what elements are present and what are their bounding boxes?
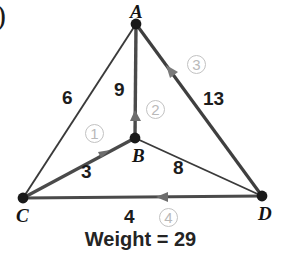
- edge-weight-BA: 9: [114, 80, 125, 99]
- edge-weight-BD: 8: [173, 158, 184, 177]
- vertex-label-C: C: [16, 206, 29, 225]
- order-marker-2: 2: [146, 100, 165, 119]
- order-marker-3: 3: [187, 55, 206, 74]
- edge-CA: [23, 24, 136, 198]
- weight-caption: Weight = 29: [0, 228, 281, 251]
- graph-figure: ) A B C D 6 9 13 3 8 4 1 2 3 4 Weight = …: [0, 0, 281, 259]
- edge-CB: [23, 138, 135, 198]
- edge-BD: [135, 138, 262, 196]
- arrowhead-DC: [156, 192, 168, 202]
- vertex-C: [18, 193, 29, 204]
- order-marker-4: 4: [159, 208, 178, 227]
- order-marker-1: 1: [85, 124, 104, 143]
- vertex-label-A: A: [130, 2, 143, 21]
- vertex-B: [130, 133, 141, 144]
- vertex-label-B: B: [132, 146, 145, 165]
- graph-canvas: [0, 0, 281, 259]
- edge-CD: [23, 196, 262, 198]
- edge-weight-AD: 13: [203, 89, 224, 108]
- vertex-label-D: D: [258, 204, 272, 223]
- vertex-D: [257, 191, 268, 202]
- edge-weight-CB: 3: [81, 162, 92, 181]
- arrowhead-AD: [166, 65, 178, 78]
- edge-weight-CA: 6: [62, 88, 73, 107]
- arrowhead-BA: [130, 110, 141, 121]
- edge-weight-CD: 4: [124, 207, 135, 226]
